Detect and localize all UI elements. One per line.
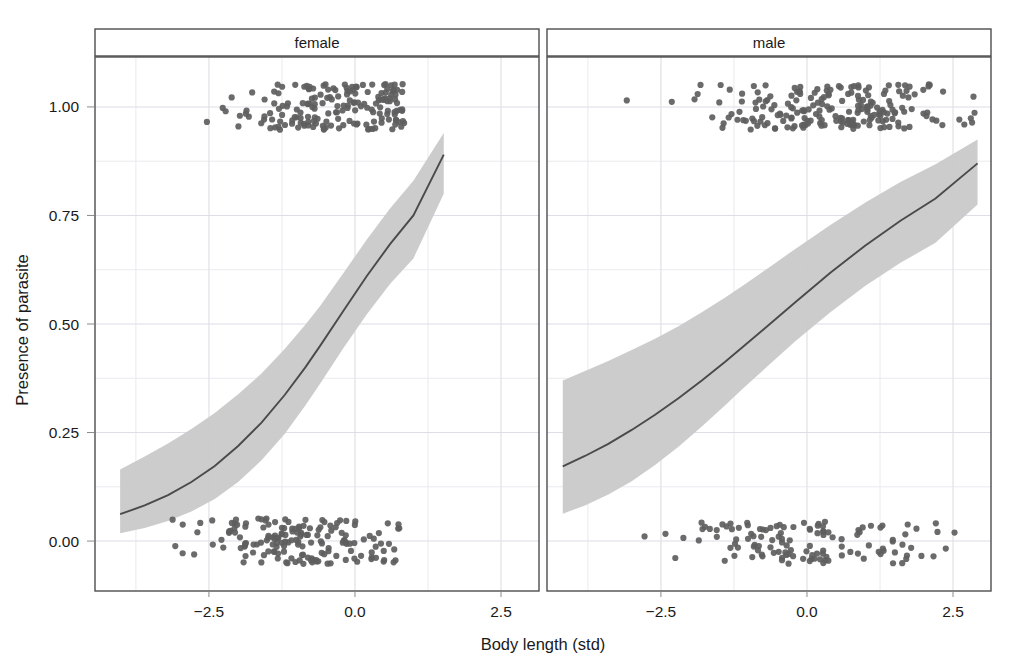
data-point — [384, 111, 390, 117]
data-point — [838, 124, 844, 130]
chart-svg: Presence of parasite Body length (std) 0… — [0, 0, 1018, 662]
data-point — [886, 124, 892, 130]
data-point — [386, 116, 392, 122]
data-point — [292, 559, 298, 565]
x-tick-label: 0.0 — [344, 603, 366, 620]
data-point — [951, 529, 957, 535]
data-point — [265, 533, 271, 539]
data-point — [180, 550, 186, 556]
data-point — [229, 94, 235, 100]
data-point — [697, 82, 703, 88]
data-point — [641, 533, 647, 539]
data-point — [767, 544, 773, 550]
data-point — [767, 93, 773, 99]
data-point — [756, 543, 762, 549]
data-point — [699, 526, 705, 532]
data-point — [281, 549, 287, 555]
data-point — [790, 125, 796, 131]
data-point — [369, 549, 375, 555]
data-point — [275, 90, 281, 96]
x-tick-label: −2.5 — [194, 603, 225, 620]
data-point — [292, 526, 298, 532]
data-point — [855, 551, 861, 557]
data-point — [866, 542, 872, 548]
data-point — [691, 96, 697, 102]
data-point — [302, 517, 308, 523]
data-point — [855, 123, 861, 129]
data-point — [295, 542, 301, 548]
data-point — [903, 556, 909, 562]
data-point — [282, 538, 288, 544]
data-point — [776, 549, 782, 555]
data-point — [824, 83, 830, 89]
data-point — [223, 108, 229, 114]
data-point — [748, 531, 754, 537]
x-tick-label: 2.5 — [942, 603, 964, 620]
data-point — [249, 89, 255, 95]
data-point — [317, 92, 323, 98]
data-point — [274, 544, 280, 550]
facet-strip-label: female — [294, 34, 339, 51]
data-point — [855, 82, 861, 88]
data-point — [739, 98, 745, 104]
data-point — [864, 109, 870, 115]
data-point — [381, 97, 387, 103]
data-point — [857, 529, 863, 535]
data-point — [385, 520, 391, 526]
data-point — [369, 81, 375, 87]
data-point — [369, 106, 375, 112]
data-point — [884, 110, 890, 116]
data-point — [335, 116, 341, 122]
data-point — [923, 113, 929, 119]
data-point — [752, 99, 758, 105]
data-point — [889, 116, 895, 122]
data-point — [354, 120, 360, 126]
data-point — [324, 95, 330, 101]
data-point — [801, 115, 807, 121]
data-point — [890, 560, 896, 566]
data-point — [729, 526, 735, 532]
data-point — [388, 92, 394, 98]
data-point — [360, 82, 366, 88]
data-point — [401, 120, 407, 126]
data-point — [378, 540, 384, 546]
data-point — [716, 99, 722, 105]
data-point — [800, 556, 806, 562]
data-point — [779, 557, 785, 563]
data-point — [751, 83, 757, 89]
data-point — [855, 110, 861, 116]
data-point — [956, 116, 962, 122]
data-point — [234, 522, 240, 528]
data-point — [358, 553, 364, 559]
data-point — [319, 540, 325, 546]
data-point — [714, 534, 720, 540]
data-point — [849, 118, 855, 124]
data-point — [262, 96, 268, 102]
data-point — [736, 109, 742, 115]
data-point — [394, 87, 400, 93]
data-point — [820, 523, 826, 529]
data-point — [707, 526, 713, 532]
data-point — [292, 114, 298, 120]
data-point — [361, 536, 367, 542]
data-point — [352, 90, 358, 96]
data-point — [275, 124, 281, 130]
data-point — [763, 527, 769, 533]
data-point — [759, 114, 765, 120]
data-point — [180, 521, 186, 527]
data-point — [292, 82, 298, 88]
data-point — [377, 104, 383, 110]
data-point — [399, 108, 405, 114]
data-point — [876, 549, 882, 555]
data-point — [899, 542, 905, 548]
data-point — [395, 521, 401, 527]
facet-panel-male: male−2.50.02.5 — [547, 29, 991, 620]
data-point — [325, 110, 331, 116]
data-point — [901, 109, 907, 115]
data-point — [821, 122, 827, 128]
data-point — [784, 124, 790, 130]
data-point — [880, 118, 886, 124]
data-point — [309, 96, 315, 102]
data-point — [768, 106, 774, 112]
data-point — [839, 98, 845, 104]
